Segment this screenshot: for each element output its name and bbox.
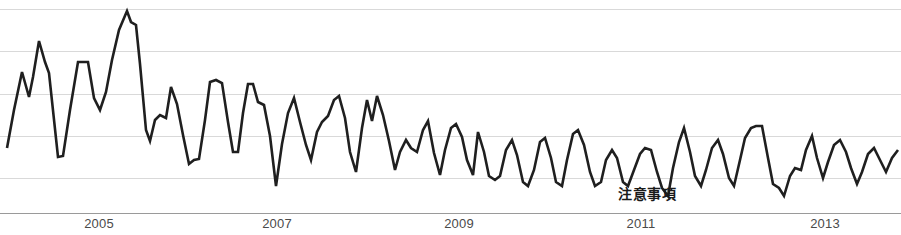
data-series-line-0 xyxy=(7,11,898,196)
plot-svg xyxy=(0,0,901,214)
plot-area xyxy=(0,0,901,214)
data-series-group xyxy=(7,11,898,196)
x-axis-tick-labels: 20052007200920112013 xyxy=(0,216,901,235)
x-tick-label-2011: 2011 xyxy=(627,216,656,231)
line-chart-container: 20052007200920112013 注意事項 xyxy=(0,0,901,235)
annotation-note-label: 注意事項 xyxy=(618,183,676,203)
x-tick-label-2013: 2013 xyxy=(810,216,840,231)
x-tick-label-2005: 2005 xyxy=(84,216,114,231)
x-tick-label-2007: 2007 xyxy=(262,216,292,231)
x-axis-line xyxy=(0,213,901,214)
x-tick-label-2009: 2009 xyxy=(444,216,474,231)
